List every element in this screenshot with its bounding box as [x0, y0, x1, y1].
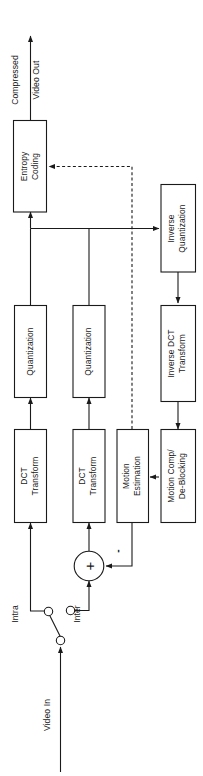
block-entropy-coding: Entropy Coding	[14, 121, 47, 213]
summing-junction-plus-label: +	[81, 561, 98, 570]
minus-sign-label: -	[112, 549, 123, 552]
block-dct-transform-inter: DCT Transform	[73, 430, 105, 523]
block-quantization-intra: Quantization	[15, 306, 47, 398]
switch-blade	[49, 613, 61, 637]
block-quantization-inter-label: Quantization	[83, 327, 93, 375]
diagram-canvas: Entropy Coding Inverse Quantization Quan…	[0, 0, 203, 776]
block-inverse-dct-label-2: Transform	[177, 334, 187, 373]
block-motion-estimation: Motion Estimation	[117, 430, 149, 523]
block-motion-estimation-label-2: Estimation	[132, 456, 142, 496]
block-motion-comp-label-2: De-Blocking	[177, 453, 187, 499]
block-dct-intra-label-2: Transform	[30, 457, 40, 496]
block-inverse-dct-transform: Inverse DCT Transform	[161, 306, 196, 402]
block-inverse-quantization-label-1: Inverse	[166, 214, 176, 242]
block-entropy-coding-label-2: Coding	[30, 153, 40, 180]
block-inverse-dct-label-1: Inverse DCT	[166, 329, 176, 377]
label-video-in: Video In	[42, 699, 52, 731]
label-intra: Intra	[10, 605, 20, 623]
label-video-out: Video Out	[31, 60, 41, 99]
block-entropy-coding-label-1: Entropy	[19, 151, 29, 181]
switch-common-node[interactable]	[56, 636, 64, 644]
intra-inter-switch[interactable]	[44, 606, 74, 644]
block-inverse-quantization-label-2: Quantization	[177, 204, 187, 252]
video-encoder-diagram: Entropy Coding Inverse Quantization Quan…	[0, 0, 203, 776]
block-quantization-intra-label: Quantization	[25, 327, 35, 375]
block-motion-comp-deblocking: Motion Comp/ De-Blocking	[161, 430, 196, 523]
label-compressed: Compressed	[10, 55, 20, 105]
edge-me-to-sum	[106, 523, 132, 566]
block-dct-intra-label-1: DCT	[19, 467, 29, 485]
block-dct-transform-intra: DCT Transform	[15, 430, 47, 523]
block-quantization-inter: Quantization	[73, 306, 105, 398]
block-dct-inter-label-2: Transform	[88, 457, 98, 496]
block-motion-estimation-label-1: Motion	[121, 463, 131, 489]
label-inter: Inter	[72, 605, 82, 623]
block-dct-inter-label-1: DCT	[77, 467, 87, 485]
block-motion-comp-label-1: Motion Comp/	[166, 449, 176, 503]
summing-junction: +	[74, 551, 104, 581]
switch-pole-intra[interactable]	[44, 607, 52, 615]
edge-intra-branch	[31, 523, 45, 611]
block-inverse-quantization: Inverse Quantization	[161, 185, 196, 273]
